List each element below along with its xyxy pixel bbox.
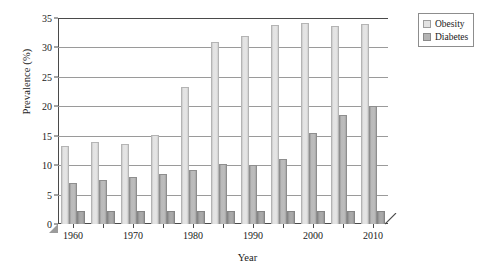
bar-diabetes-1990[interactable] — [249, 165, 257, 224]
bar-obesity-1985[interactable] — [211, 42, 219, 224]
legend-label-obesity: Obesity — [435, 19, 465, 29]
chart-legend: Obesity Diabetes — [418, 13, 474, 47]
bar-baseline-1980[interactable] — [197, 211, 205, 224]
x-tick-label-1980: 1980 — [183, 230, 203, 241]
x-tick-label-1990: 1990 — [243, 230, 263, 241]
x-tick-mark-1970 — [133, 224, 134, 228]
bar-diabetes-1995[interactable] — [279, 159, 287, 224]
y-tick-label-20: 20 — [42, 101, 52, 112]
x-axis: 196019701980199020002010 — [58, 224, 388, 250]
bar-obesity-1960[interactable] — [61, 146, 69, 224]
x-tick-mark-1960 — [73, 224, 74, 228]
x-tick-mark-1995 — [283, 224, 284, 228]
bar-baseline-2005[interactable] — [347, 211, 355, 224]
x-tick-mark-1990 — [253, 224, 254, 228]
x-tick-mark-2005 — [343, 224, 344, 228]
x-tick-mark-1975 — [163, 224, 164, 228]
bar-group-1980 — [181, 18, 205, 224]
x-axis-title: Year — [0, 252, 495, 263]
bar-diabetes-2010[interactable] — [369, 106, 377, 224]
bar-obesity-1975[interactable] — [151, 135, 159, 224]
bar-group-1970 — [121, 18, 145, 224]
bar-group-1995 — [271, 18, 295, 224]
x-tick-label-2010: 2010 — [363, 230, 383, 241]
bar-obesity-1965[interactable] — [91, 142, 99, 224]
bar-obesity-2000[interactable] — [301, 23, 309, 224]
bar-diabetes-1985[interactable] — [219, 164, 227, 224]
y-tick-label-35: 35 — [42, 13, 52, 24]
y-tick-label-5: 5 — [47, 189, 52, 200]
bar-group-2005 — [331, 18, 355, 224]
x-tick-mark-1980 — [193, 224, 194, 228]
legend-item-obesity[interactable]: Obesity — [423, 17, 468, 30]
x-tick-mark-1965 — [103, 224, 104, 228]
bar-obesity-2010[interactable] — [361, 24, 369, 224]
x-tick-mark-2000 — [313, 224, 314, 228]
bar-baseline-1975[interactable] — [167, 211, 175, 224]
bar-diabetes-1965[interactable] — [99, 180, 107, 224]
bar-obesity-1980[interactable] — [181, 87, 189, 224]
bar-obesity-1995[interactable] — [271, 25, 279, 224]
x-tick-mark-2010 — [373, 224, 374, 228]
bar-group-1990 — [241, 18, 265, 224]
legend-item-diabetes[interactable]: Diabetes — [423, 30, 468, 43]
bar-baseline-1965[interactable] — [107, 211, 115, 224]
bar-baseline-1970[interactable] — [137, 211, 145, 224]
bar-group-1975 — [151, 18, 175, 224]
chart-container: Prevalence (%) 05101520253035 1960197019… — [0, 0, 495, 279]
bar-diabetes-1975[interactable] — [159, 174, 167, 224]
y-tick-label-25: 25 — [42, 71, 52, 82]
legend-label-diabetes: Diabetes — [435, 32, 468, 42]
y-tick-label-15: 15 — [42, 130, 52, 141]
y-tick-label-0: 0 — [47, 219, 52, 230]
bar-series-layer — [58, 18, 388, 224]
y-tick-label-30: 30 — [42, 42, 52, 53]
x-tick-label-1960: 1960 — [63, 230, 83, 241]
bar-diabetes-2000[interactable] — [309, 133, 317, 224]
bar-diabetes-1960[interactable] — [69, 183, 77, 224]
bar-baseline-1960[interactable] — [77, 211, 85, 224]
bar-diabetes-1970[interactable] — [129, 177, 137, 224]
y-axis-title: Prevalence (%) — [21, 12, 32, 152]
legend-swatch-diabetes — [423, 33, 431, 41]
bar-baseline-1995[interactable] — [287, 211, 295, 224]
bar-baseline-2000[interactable] — [317, 211, 325, 224]
bar-diabetes-1980[interactable] — [189, 170, 197, 224]
bar-obesity-1990[interactable] — [241, 36, 249, 224]
bar-group-2010 — [361, 18, 385, 224]
bar-group-1960 — [61, 18, 85, 224]
bar-baseline-1990[interactable] — [257, 211, 265, 224]
x-tick-mark-1985 — [223, 224, 224, 228]
x-tick-label-2000: 2000 — [303, 230, 323, 241]
bar-diabetes-2005[interactable] — [339, 115, 347, 224]
x-tick-label-1970: 1970 — [123, 230, 143, 241]
bar-obesity-2005[interactable] — [331, 26, 339, 224]
legend-swatch-obesity — [423, 20, 431, 28]
y-tick-label-10: 10 — [42, 160, 52, 171]
bar-group-2000 — [301, 18, 325, 224]
bar-baseline-1985[interactable] — [227, 211, 235, 224]
bar-obesity-1970[interactable] — [121, 144, 129, 224]
bar-group-1985 — [211, 18, 235, 224]
bar-baseline-2010[interactable] — [377, 211, 385, 224]
bar-group-1965 — [91, 18, 115, 224]
plot-area: 05101520253035 — [58, 18, 388, 224]
